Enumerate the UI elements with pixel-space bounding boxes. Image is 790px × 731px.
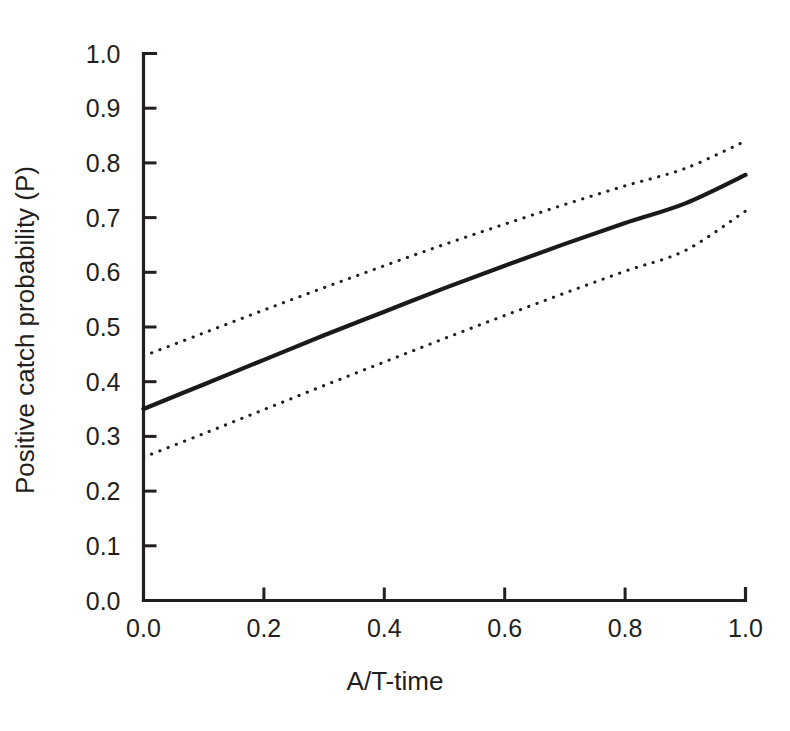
x-tick-label: 0.8 (608, 614, 643, 642)
y-axis-ticks (144, 108, 157, 546)
y-tick-label: 0.3 (86, 422, 121, 450)
x-axis: 0.00.20.40.60.81.0 (126, 588, 763, 642)
x-tick-label: 0.4 (367, 614, 402, 642)
y-tick-label: 0.9 (86, 94, 121, 122)
y-axis-title: Positive catch probability (P) (10, 166, 40, 494)
x-axis-line (144, 589, 746, 601)
x-tick-label: 0.0 (126, 614, 161, 642)
y-tick-label: 0.0 (86, 587, 121, 615)
y-tick-label: 1.0 (86, 40, 121, 68)
y-tick-label: 0.1 (86, 532, 121, 560)
series-line-lower-ci (144, 211, 746, 457)
chart-series-group (144, 141, 746, 457)
x-tick-label: 0.2 (247, 614, 282, 642)
chart-plot-area: 0.00.10.20.30.40.50.60.70.80.91.0 0.00.2… (0, 0, 790, 731)
y-tick-label: 0.4 (86, 368, 121, 396)
x-axis-title: A/T-time (347, 666, 444, 696)
x-axis-tick-labels: 0.00.20.40.60.81.0 (126, 614, 763, 642)
y-tick-label: 0.6 (86, 258, 121, 286)
y-tick-label: 0.5 (86, 313, 121, 341)
y-tick-label: 0.7 (86, 204, 121, 232)
x-axis-ticks (264, 588, 625, 601)
y-axis: 0.00.10.20.30.40.50.60.70.80.91.0 (86, 40, 157, 615)
x-tick-label: 1.0 (728, 614, 763, 642)
y-tick-label: 0.2 (86, 477, 121, 505)
chart-figure: 0.00.10.20.30.40.50.60.70.80.91.0 0.00.2… (0, 0, 790, 731)
series-line-upper-ci (144, 141, 746, 356)
y-axis-tick-labels: 0.00.10.20.30.40.50.60.70.80.91.0 (86, 40, 121, 615)
y-tick-label: 0.8 (86, 149, 121, 177)
series-line-fitted (144, 175, 746, 409)
x-tick-label: 0.6 (487, 614, 522, 642)
